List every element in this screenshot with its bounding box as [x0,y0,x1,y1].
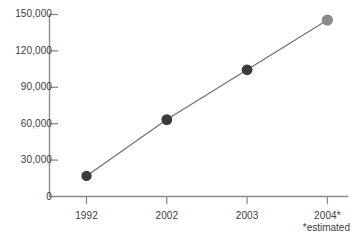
data-point-2004 [322,15,333,26]
chart-plot-area [0,0,352,233]
line-chart: 150,000 120,000 90,000 60,000 30,000 0 1… [0,0,352,233]
x-tick-label-2002: 2002 [155,211,178,221]
data-line [87,20,328,176]
data-point-1992 [81,171,91,181]
y-tick-label-120000: 120,000 [0,46,52,56]
data-point-2002 [161,114,172,125]
x-tick-label-2003: 2003 [236,211,259,221]
y-tick-label-60000: 60,000 [0,119,52,129]
y-tick-label-0: 0 [0,192,52,202]
estimated-footnote: *estimated [303,223,350,233]
data-point-2003 [242,64,253,75]
x-tick-label-1992: 1992 [75,211,98,221]
y-tick-label-30000: 30,000 [0,155,52,165]
x-axis-ticks [87,197,328,205]
y-tick-label-90000: 90,000 [0,82,52,92]
x-tick-label-2004: 2004* [314,211,341,221]
y-tick-label-150000: 150,000 [0,9,52,19]
